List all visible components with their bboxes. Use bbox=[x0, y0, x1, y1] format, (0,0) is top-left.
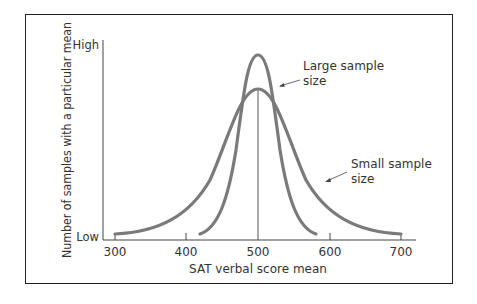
x-tick-400: 400 bbox=[175, 245, 198, 259]
small-sample-label-line1: Small sample bbox=[351, 157, 432, 171]
x-tick-700: 700 bbox=[390, 245, 413, 259]
x-tick-600: 600 bbox=[319, 245, 342, 259]
small-sample-label-line2: size bbox=[351, 172, 374, 186]
x-axis-title: SAT verbal score mean bbox=[189, 262, 327, 276]
y-low-label: Low bbox=[76, 230, 99, 244]
y-axis-title: Number of samples with a particular mean bbox=[60, 22, 74, 258]
sampling-distribution-chart: Large sample size Small sample size High… bbox=[0, 0, 477, 304]
x-tick-500: 500 bbox=[247, 245, 270, 259]
large-sample-label-line1: Large sample bbox=[303, 59, 384, 73]
large-sample-label-line2: size bbox=[303, 74, 326, 88]
x-tick-300: 300 bbox=[104, 245, 127, 259]
y-high-label: High bbox=[73, 38, 99, 52]
